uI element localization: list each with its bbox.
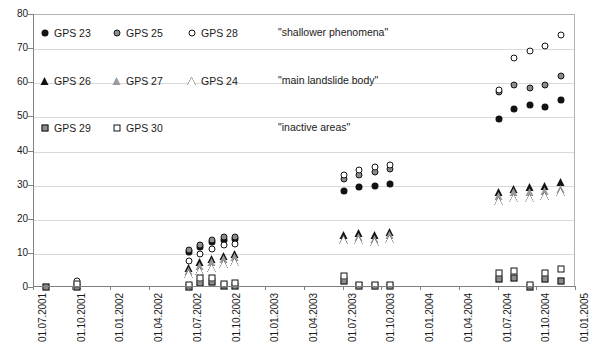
x-tick-mark (72, 286, 73, 290)
data-point-gps-24 (231, 258, 240, 266)
data-point-gps-23 (371, 182, 378, 189)
legend-label: GPS 30 (126, 122, 163, 134)
y-tick-label: 50 (17, 111, 28, 121)
x-tick-label: 01.10.2001 (76, 293, 87, 342)
y-tick-mark (28, 82, 33, 83)
data-point-gps-25 (209, 237, 216, 244)
data-point-gps-30 (340, 273, 347, 280)
y-axis-line (33, 14, 34, 287)
legend-row: GPS 23GPS 25GPS 28"shallower phenomena" (40, 26, 560, 40)
y-tick-mark (28, 219, 33, 220)
y-tick-label: 30 (17, 180, 28, 190)
data-point-gps-30 (557, 266, 564, 273)
legend-marker-icon (40, 77, 49, 86)
legend-marker-icon (112, 29, 121, 38)
data-point-gps-24 (196, 267, 205, 275)
x-tick-mark (188, 286, 189, 290)
x-tick-label: 01.07.2003 (347, 293, 358, 342)
x-tick-label: 01.01.2005 (579, 293, 590, 342)
y-tick-mark (28, 116, 33, 117)
y-tick-label: 70 (17, 43, 28, 53)
data-point-gps-24 (510, 194, 519, 202)
data-point-gps-29 (511, 274, 518, 281)
legend-marker-icon (187, 77, 196, 86)
legend-item-gps-23[interactable]: GPS 23 (40, 26, 91, 40)
data-point-gps-24 (541, 192, 550, 200)
data-point-gps-30 (495, 269, 502, 276)
data-point-gps-24 (494, 197, 503, 205)
x-tick-label: 01.10.2002 (231, 293, 242, 342)
legend-item-gps-25[interactable]: GPS 25 (112, 26, 163, 40)
x-tick-label: 01.10.2004 (540, 293, 551, 342)
data-point-gps-23 (356, 184, 363, 191)
x-tick-label: 01.01.2003 (269, 293, 280, 342)
scatter-chart: 01020304050607080 01.07.200101.10.200101… (0, 0, 593, 360)
data-point-gps-30 (185, 281, 192, 288)
data-point-gps-24 (355, 236, 364, 244)
legend: GPS 23GPS 25GPS 28"shallower phenomena"G… (40, 26, 560, 136)
data-point-gps-25 (197, 242, 204, 249)
legend-label: GPS 27 (126, 75, 163, 87)
data-point-gps-28 (387, 162, 394, 169)
data-point-gps-24 (525, 194, 534, 202)
legend-item-gps-24[interactable]: GPS 24 (187, 74, 238, 88)
x-tick-mark (343, 286, 344, 290)
x-tick-mark (149, 286, 150, 290)
legend-label: GPS 23 (54, 27, 91, 39)
y-tick-mark (28, 48, 33, 49)
legend-item-gps-30[interactable]: GPS 30 (112, 121, 163, 135)
data-point-gps-25 (185, 247, 192, 254)
y-tick-mark (28, 151, 33, 152)
legend-marker-icon (112, 124, 121, 133)
data-point-gps-28 (197, 250, 204, 257)
legend-group-label: "shallower phenomena" (278, 26, 388, 38)
legend-item-gps-29[interactable]: GPS 29 (40, 121, 91, 135)
legend-item-gps-27[interactable]: GPS 27 (112, 74, 163, 88)
data-point-gps-28 (232, 240, 239, 247)
x-tick-label: 01.07.2004 (502, 293, 513, 342)
legend-group-label: "main landslide body" (278, 74, 378, 86)
data-point-gps-28 (220, 242, 227, 249)
data-point-gps-24 (219, 260, 228, 268)
legend-item-gps-26[interactable]: GPS 26 (40, 74, 91, 88)
y-tick-label: 40 (17, 146, 28, 156)
legend-marker-icon (40, 124, 49, 133)
x-tick-label: 01.04.2003 (308, 293, 319, 342)
data-point-gps-24 (208, 264, 217, 272)
legend-row: GPS 29GPS 30"inactive areas" (40, 121, 560, 135)
y-tick-mark (28, 253, 33, 254)
legend-group-label: "inactive areas" (278, 121, 350, 133)
legend-item-gps-28[interactable]: GPS 28 (187, 26, 238, 40)
y-tick-label: 60 (17, 77, 28, 87)
x-tick-mark (265, 286, 266, 290)
y-tick-mark (28, 14, 33, 15)
x-tick-label: 01.07.2001 (37, 293, 48, 342)
x-tick-label: 01.10.2003 (385, 293, 396, 342)
data-point-gps-24 (556, 188, 565, 196)
data-point-gps-30 (209, 274, 216, 281)
data-point-gps-30 (542, 269, 549, 276)
legend-label: GPS 26 (54, 75, 91, 87)
y-tick-mark (28, 185, 33, 186)
y-tick-label: 20 (17, 214, 28, 224)
data-point-gps-28 (371, 163, 378, 170)
x-tick-label: 01.01.2002 (114, 293, 125, 342)
gridline-y-10 (34, 254, 574, 255)
y-tick-label: 80 (17, 9, 28, 19)
legend-marker-icon (112, 77, 121, 86)
x-tick-mark (459, 286, 460, 290)
x-tick-mark (381, 286, 382, 290)
data-point-gps-23 (387, 180, 394, 187)
data-point-gps-30 (511, 267, 518, 274)
x-tick-mark (33, 286, 34, 290)
data-point-gps-29 (542, 276, 549, 283)
x-tick-mark (110, 286, 111, 290)
x-tick-mark (227, 286, 228, 290)
gridline-y-40 (34, 152, 574, 153)
data-point-gps-23 (340, 187, 347, 194)
legend-label: GPS 29 (54, 122, 91, 134)
gridline-y-20 (34, 220, 574, 221)
legend-marker-icon (187, 29, 196, 38)
data-point-gps-25 (220, 233, 227, 240)
data-point-gps-24 (386, 235, 395, 243)
